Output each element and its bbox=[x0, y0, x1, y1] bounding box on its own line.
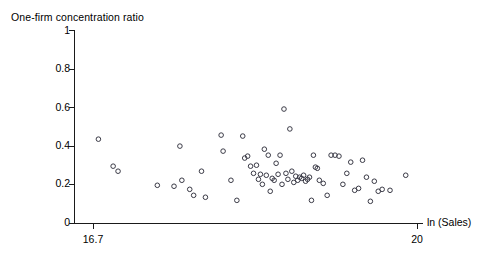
data-point bbox=[155, 183, 160, 188]
data-point bbox=[256, 177, 261, 182]
plot-area bbox=[0, 0, 489, 255]
data-point bbox=[368, 199, 373, 204]
data-point bbox=[258, 172, 263, 177]
data-point bbox=[290, 169, 295, 174]
data-point bbox=[111, 164, 116, 169]
data-point bbox=[276, 172, 281, 177]
data-point bbox=[278, 153, 283, 158]
data-point bbox=[172, 184, 177, 189]
data-point bbox=[191, 193, 196, 198]
y-axis-ticks bbox=[69, 31, 75, 224]
data-point bbox=[187, 187, 192, 192]
data-point bbox=[286, 177, 291, 182]
data-point bbox=[274, 161, 279, 166]
data-point bbox=[221, 149, 226, 154]
data-point bbox=[268, 189, 273, 194]
data-point bbox=[240, 134, 245, 139]
data-point bbox=[251, 171, 256, 176]
data-point bbox=[266, 153, 271, 158]
data-point bbox=[345, 171, 350, 176]
data-point bbox=[341, 182, 346, 187]
data-point bbox=[264, 173, 269, 178]
data-point bbox=[260, 182, 265, 187]
data-point bbox=[403, 173, 408, 178]
data-point bbox=[364, 175, 369, 180]
data-point bbox=[288, 127, 293, 132]
data-point bbox=[116, 169, 121, 174]
data-point bbox=[372, 179, 377, 184]
data-point bbox=[180, 178, 185, 183]
data-point bbox=[311, 153, 316, 158]
data-point bbox=[309, 198, 314, 203]
data-point bbox=[280, 182, 285, 187]
data-point-group bbox=[96, 107, 408, 204]
data-point bbox=[235, 198, 240, 203]
data-point bbox=[325, 193, 330, 198]
data-point bbox=[248, 164, 253, 169]
data-point bbox=[96, 137, 101, 142]
data-point bbox=[321, 181, 326, 186]
data-point bbox=[380, 187, 385, 192]
scatter-plot-figure: One-firm concentration ratio ln (Sales) … bbox=[0, 0, 489, 255]
data-point bbox=[203, 195, 208, 200]
data-point bbox=[348, 160, 353, 165]
data-point bbox=[388, 188, 393, 193]
data-point bbox=[360, 158, 365, 163]
data-point bbox=[229, 178, 234, 183]
x-axis-ticks bbox=[94, 224, 418, 230]
data-point bbox=[284, 171, 289, 176]
data-point bbox=[282, 107, 287, 112]
data-point bbox=[178, 144, 183, 149]
data-point bbox=[219, 133, 224, 138]
data-point bbox=[199, 169, 204, 174]
data-point bbox=[254, 163, 259, 168]
data-point bbox=[356, 186, 361, 191]
data-point bbox=[262, 147, 267, 152]
